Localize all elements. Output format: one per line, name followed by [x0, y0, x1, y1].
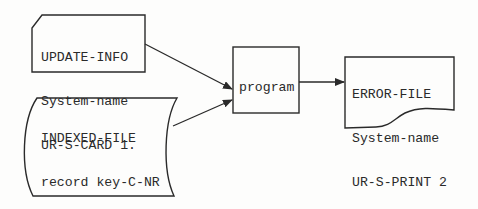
error-file-line-2: System-name — [352, 132, 447, 147]
program-line-1: program — [239, 81, 294, 96]
program-label: program — [239, 52, 294, 125]
error-file-label: ERROR-FILE System-name UR-S-PRINT 2 — [352, 59, 447, 209]
indexed-file-line-2: record key-C-NR — [41, 176, 160, 191]
data-flow-diagram: UPDATE-INFO System-name UR-S-CARD 1. IND… — [0, 0, 478, 209]
error-file-line-3: UR-S-PRINT 2 — [352, 176, 447, 191]
arrow-update-info-to-program — [145, 44, 232, 89]
error-file-line-1: ERROR-FILE — [352, 88, 447, 103]
update-info-line-1: UPDATE-INFO — [41, 51, 136, 66]
indexed-file-line-1: INDEXED-FILE — [41, 132, 160, 147]
arrow-indexed-file-to-program — [173, 100, 232, 126]
indexed-file-label: INDEXED-FILE record key-C-NR symbolic ke… — [41, 103, 160, 209]
